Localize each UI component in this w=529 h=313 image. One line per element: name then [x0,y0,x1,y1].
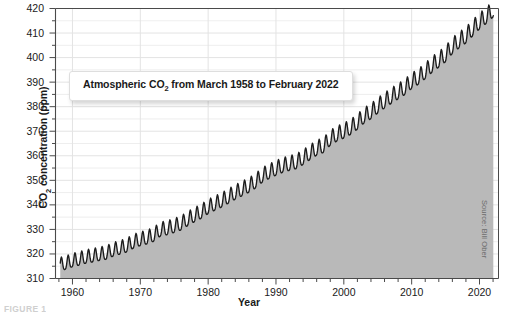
figure-caption: FIGURE 1 [4,304,46,313]
y-axis-tick-label: 420 [0,3,44,13]
y-axis-tick-label: 330 [0,224,44,234]
plot-area [0,0,529,313]
callout-title-post: from March 1958 to February 2022 [169,78,339,90]
y-axis-tick-label: 370 [0,126,44,136]
y-axis-tick-label: 400 [0,52,44,62]
y-axis-tick-label: 360 [0,150,44,160]
chart-figure: CO2 concentration (ppm) 3103203303403503… [0,0,529,313]
y-axis-tick-label: 350 [0,175,44,185]
callout-title-pre: Atmospheric CO [83,78,164,90]
y-axis-tick-label: 380 [0,101,44,111]
y-axis-tick-label: 310 [0,273,44,283]
y-axis-tick-label: 320 [0,248,44,258]
x-axis-label: Year [0,296,498,308]
chart-title-callout: Atmospheric CO2 from March 1958 to Febru… [69,71,353,101]
y-axis-tick-label: 390 [0,77,44,87]
source-credit: Source: Bill Ober [480,200,489,310]
y-axis-tick-label: 410 [0,28,44,38]
y-axis-tick-label: 340 [0,199,44,209]
